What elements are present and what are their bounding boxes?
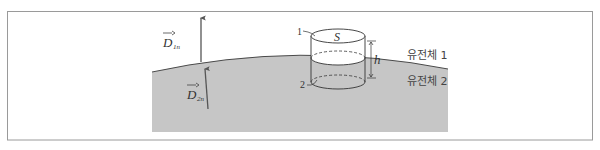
bottom-face-marker-label: 2 <box>300 79 305 90</box>
vector-d1n-symbol: D <box>162 35 173 50</box>
dielectric-boundary-diagram: D 1n D 2n S 1 2 h <box>0 0 600 150</box>
top-face-marker-label: 1 <box>297 26 302 37</box>
vector-d1n-label: D 1n <box>162 31 181 51</box>
vector-arrow-accent-head <box>172 31 175 35</box>
height-label: h <box>374 52 381 67</box>
lower-medium-label: 유전체 2 <box>407 75 448 88</box>
vector-d2n-symbol: D <box>186 87 197 102</box>
upper-medium-label: 유전체 1 <box>407 49 448 62</box>
cylinder-area-label: S <box>334 30 340 44</box>
lower-medium-region <box>152 55 448 132</box>
vector-d1n-subscript: 1n <box>173 43 181 51</box>
vector-d2n-subscript: 2n <box>197 95 205 103</box>
